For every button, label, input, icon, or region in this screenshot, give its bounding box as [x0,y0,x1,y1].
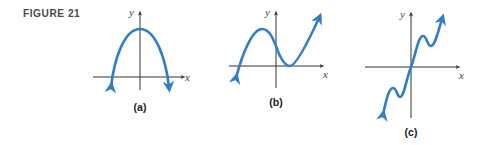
graph-a: x y (a) [93,6,190,113]
x-axis-label: x [322,68,328,80]
cubic-curve [236,18,319,78]
panel-caption: (c) [405,126,418,138]
x-axis-label: x [184,71,190,83]
y-axis-label: y [128,6,134,18]
x-axis-label: x [458,69,464,81]
y-axis-label: y [264,6,270,18]
graph-b: x y (b) [229,6,328,108]
figure-plots: x y (a) x y (b) x y (c) [0,0,486,145]
panel-caption: (a) [134,101,147,113]
panel-caption: (b) [269,96,282,108]
y-axis-label: y [399,8,405,20]
graph-c: x y (c) [365,8,464,138]
